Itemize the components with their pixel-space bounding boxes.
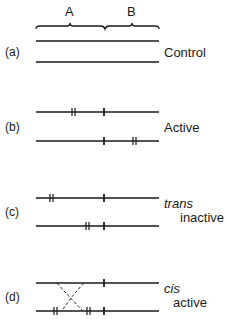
panel-c-id: (c)	[5, 206, 19, 218]
panel-c-label-status: inactive	[180, 211, 224, 224]
panel-a-id: (a)	[5, 46, 20, 58]
panel-b-label: Active	[164, 121, 199, 134]
panel-b-id: (b)	[5, 121, 20, 133]
region-brace	[36, 23, 159, 29]
panel-d-label-status: active	[173, 296, 207, 309]
panel-d-label-mode: cis	[164, 282, 180, 295]
region-a-label: A	[65, 5, 74, 18]
panel-c-label-mode: trans	[164, 197, 193, 210]
region-b-label: B	[127, 5, 136, 18]
crossover-dashed-1	[57, 283, 83, 311]
crossover-dashed-2	[62, 283, 84, 311]
panel-d-id: (d)	[5, 291, 20, 303]
panel-a-label: Control	[164, 46, 206, 59]
